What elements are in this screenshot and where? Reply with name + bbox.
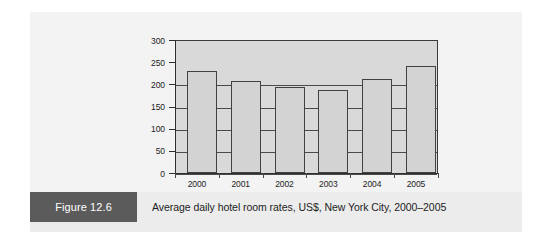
y-axis-label-200: 200 [135, 80, 165, 90]
y-axis-label-300: 300 [135, 36, 165, 46]
y-tick-200 [169, 84, 175, 85]
x-axis-label-2003: 2003 [308, 179, 348, 189]
figure-caption-row: Figure 12.6 Average daily hotel room rat… [30, 192, 522, 232]
x-tick-start [175, 173, 176, 178]
x-axis-label-2002: 2002 [265, 179, 305, 189]
y-axis-label-150: 150 [135, 102, 165, 112]
bar-2002 [275, 87, 305, 173]
bar-2003 [318, 90, 348, 173]
y-axis-label-100: 100 [135, 124, 165, 134]
bar-2000 [187, 71, 217, 173]
bar-2005 [406, 66, 436, 173]
y-tick-250 [169, 62, 175, 63]
x-axis-label-2004: 2004 [352, 179, 392, 189]
x-tick-2004-2005 [394, 173, 395, 178]
x-tick-2002-2003 [306, 173, 307, 178]
y-axis [175, 40, 176, 174]
x-axis-label-2005: 2005 [396, 179, 436, 189]
bar-2001 [231, 81, 261, 173]
x-tick-2001-2002 [263, 173, 264, 178]
y-axis-label-50: 50 [135, 146, 165, 156]
y-axis-label-0: 0 [135, 169, 165, 179]
x-tick-2003-2004 [350, 173, 351, 178]
figure-number-badge: Figure 12.6 [30, 192, 137, 222]
y-axis-labels: 300 250 200 150 100 50 0 [133, 12, 165, 192]
y-tick-50 [169, 151, 175, 152]
bar-2004 [362, 79, 392, 173]
x-axis-label-2000: 2000 [177, 179, 217, 189]
x-tick-end [438, 173, 439, 178]
y-tick-300 [169, 40, 175, 41]
y-tick-100 [169, 129, 175, 130]
y-tick-150 [169, 107, 175, 108]
bar-series [175, 40, 438, 173]
x-tick-2000-2001 [219, 173, 220, 178]
x-axis-label-2001: 2001 [221, 179, 261, 189]
figure-caption-text: Average daily hotel room rates, US$, New… [152, 192, 446, 222]
y-axis-label-250: 250 [135, 58, 165, 68]
figure-block: 300 250 200 150 100 50 0 2000 2001 2002 … [30, 12, 522, 232]
bar-chart: 300 250 200 150 100 50 0 2000 2001 2002 … [30, 12, 522, 192]
